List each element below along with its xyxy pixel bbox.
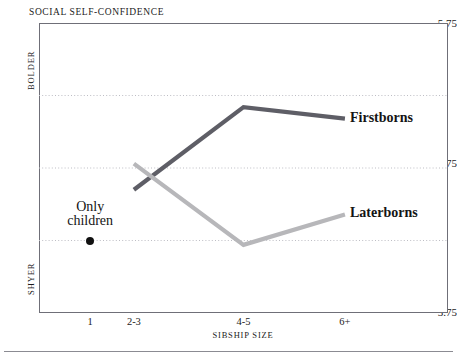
y-axis-label-bolder: BOLDER [26,51,36,90]
series-lines-group [134,107,345,245]
annotation-only-children-line2: children [67,214,113,228]
y-axis-label-shyer: SHYER [26,263,36,295]
chart-title: SOCIAL SELF-CONFIDENCE [29,7,164,17]
x-axis-tick-1: 1 [88,316,93,327]
only-children-data-point [86,237,94,245]
x-axis-tick-4-5: 4-5 [237,316,251,327]
chart-figure: SOCIAL SELF-CONFIDENCE 5.75 4.75 3.75 BO… [0,0,457,360]
series-line-laterborns [134,164,345,245]
footer-rule [4,351,453,352]
series-label-laterborns: Laterborns [350,205,418,221]
series-line-firstborns [134,107,345,190]
annotation-only-children-line1: Only [67,200,113,214]
x-axis-tick-2-3: 2-3 [127,316,141,327]
series-label-firstborns: Firstborns [350,110,413,126]
x-axis-tick-6plus: 6+ [339,316,350,327]
annotation-only-children: Only children [67,200,113,229]
plot-canvas [39,23,448,313]
x-axis-title: SIBSHIP SIZE [212,330,273,340]
